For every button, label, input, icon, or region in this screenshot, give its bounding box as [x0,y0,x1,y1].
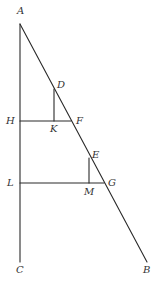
label-H: H [5,115,15,126]
label-B: B [142,264,150,275]
label-E: E [91,149,100,160]
label-A: A [16,5,24,16]
label-M: M [83,186,95,197]
label-D: D [56,79,65,90]
label-K: K [49,123,58,134]
label-G: G [108,177,116,188]
segment-AB [20,24,147,262]
geometry-diagram: A D H K F E L M G C B [0,0,164,289]
label-C: C [16,264,24,275]
label-F: F [75,115,84,126]
label-L: L [6,177,14,188]
